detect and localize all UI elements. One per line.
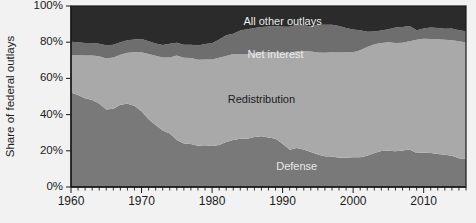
x-tick-label-1990: 1990 [269, 194, 296, 208]
x-tick-label-1980: 1980 [199, 194, 226, 208]
y-axis-title: Share of federal outlays [4, 36, 16, 158]
x-tick-label-2010: 2010 [410, 194, 437, 208]
y-tick-label-20: 20% [40, 144, 63, 156]
series-label-redistribution: Redistribution [228, 93, 295, 105]
y-tick-label-80: 80% [40, 35, 63, 47]
series-label-all-other-outlays: All other outlays [243, 15, 322, 27]
y-tick-label-40: 40% [40, 108, 63, 120]
series-label-net-interest: Net interest [247, 48, 303, 60]
y-tick-label-0: 0% [46, 180, 63, 192]
y-tick-label-100: 100% [34, 0, 63, 11]
top-mask [71, 0, 466, 6]
stacked-area-chart: DefenseRedistributionNet interestAll oth… [0, 0, 476, 223]
x-tick-label-2000: 2000 [340, 194, 367, 208]
chart-canvas: DefenseRedistributionNet interestAll oth… [0, 0, 476, 223]
x-tick-label-1960: 1960 [58, 194, 85, 208]
y-tick-label-60: 60% [40, 71, 63, 83]
series-label-defense: Defense [276, 160, 317, 172]
x-tick-label-1970: 1970 [128, 194, 155, 208]
